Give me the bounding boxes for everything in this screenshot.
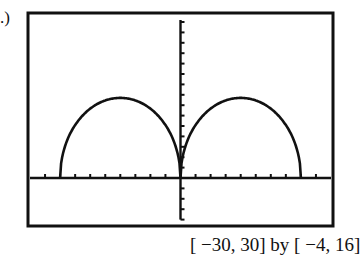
window-caption: [ −30, 30] by [ −4, 16]: [190, 234, 360, 256]
axes: [30, 20, 331, 220]
